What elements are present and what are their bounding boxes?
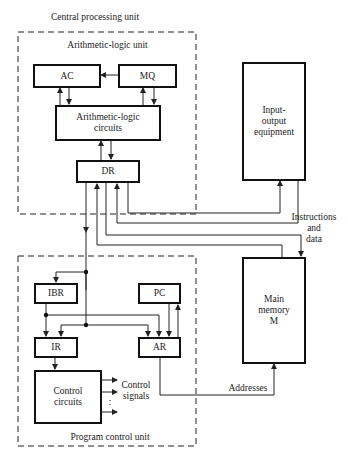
mem-line2: memory [258,305,290,316]
cpu-label: Central processing unit [40,12,150,23]
alc-line2: circuits [94,123,122,134]
input-output-equipment: Input- output equipment [242,62,306,181]
instr-line1: Instructions [280,212,348,223]
dr-register: DR [76,160,140,183]
dr-label: DR [101,166,114,177]
mq-label: MQ [140,71,155,82]
cc-line1: Control [53,386,82,397]
io-line3: equipment [254,127,294,138]
control-circuits: Control circuits [34,370,102,424]
ac-label: AC [60,71,73,82]
program-control-label: Program control unit [55,432,165,443]
ar-register: AR [138,337,181,358]
ibr-label: IBR [48,288,64,299]
cc-line2: circuits [54,397,82,408]
ac-register: AC [33,64,101,88]
instr-line3: data [280,234,348,245]
alc-line1: Arithmetic-logic [76,112,139,123]
ir-label: IR [51,342,61,353]
control-signals-ellipsis: : [104,396,116,407]
ibr-register: IBR [34,283,78,304]
instructions-and-data-label: Instructions and data [280,212,348,245]
mq-register: MQ [118,64,177,88]
cs-line2: signals [116,391,156,402]
main-memory: Main memory M [242,257,306,364]
mem-line1: Main [264,294,284,305]
arithmetic-logic-circuits: Arithmetic-logic circuits [55,105,161,141]
pc-register: PC [138,283,181,304]
io-line2: output [262,116,286,127]
junction-dot [84,270,88,274]
ar-label: AR [153,342,166,353]
mem-line3: M [270,316,278,327]
control-signals-label: Control signals [116,380,156,402]
junction-dot [44,313,48,317]
io-line1: Input- [262,105,285,116]
junction-dot [84,323,88,327]
pc-label: PC [154,288,166,299]
addresses-label: Addresses [223,383,273,394]
cs-line1: Control [116,380,156,391]
instr-line2: and [280,223,348,234]
alu-label: Arithmetic-logic unit [55,40,160,51]
ir-register: IR [34,337,78,358]
